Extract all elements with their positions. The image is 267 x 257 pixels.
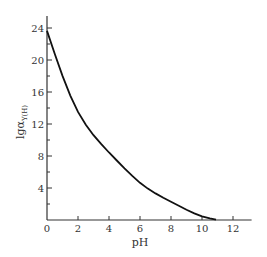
x-tick-label: 2 (75, 223, 81, 234)
y-axis-label-sub: Y(H) (21, 105, 29, 122)
x-tick-label: 12 (227, 223, 240, 234)
y-tick-label: 20 (31, 55, 44, 66)
data-curve (47, 31, 216, 220)
y-axis-label-main: lgα (14, 121, 27, 140)
y-tick-label: 8 (38, 151, 44, 162)
x-axis-label: pH (132, 236, 149, 249)
y-axis-label: lgαY(H) (14, 105, 29, 139)
ticks: 0246810124812162024 (31, 23, 239, 235)
y-tick-label: 24 (31, 23, 44, 34)
y-tick-label: 16 (31, 87, 44, 98)
chart: 0246810124812162024 pH lgαY(H) (0, 0, 267, 257)
x-tick-label: 4 (106, 223, 112, 234)
x-tick-label: 8 (168, 223, 174, 234)
x-tick-label: 10 (196, 223, 209, 234)
y-tick-label: 4 (38, 183, 44, 194)
x-tick-label: 6 (137, 223, 143, 234)
y-tick-label: 12 (31, 119, 44, 130)
x-tick-label: 0 (44, 223, 50, 234)
